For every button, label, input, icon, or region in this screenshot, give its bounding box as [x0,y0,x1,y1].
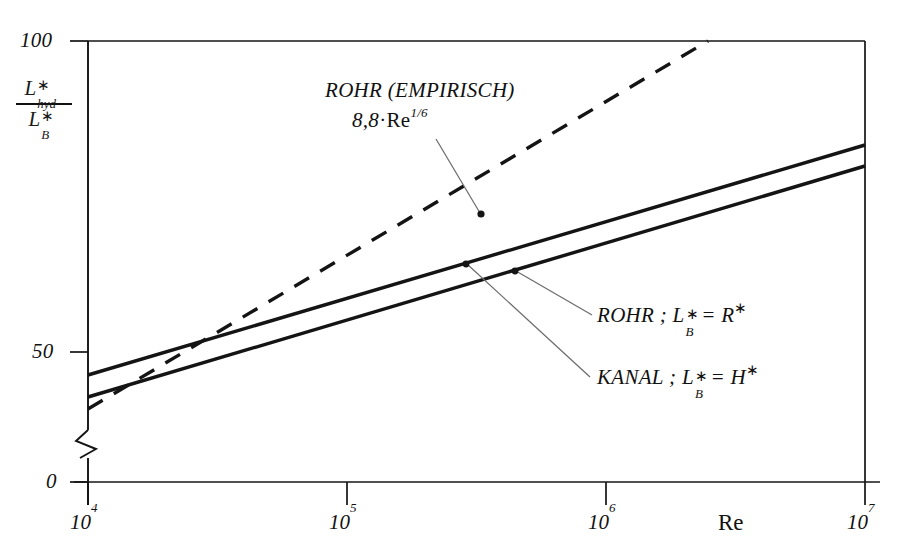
annotation-empirical-line2: 8,8·Re1/6 [352,108,428,133]
annotation-rohr-sub: B [686,324,694,340]
anchor-dot-rohr [512,268,519,275]
annotation-empirical-coeff: 8,8 [352,108,379,132]
y-den-sub: B [41,128,49,141]
ytick-label-0: 0 [46,469,57,494]
y-axis-label: L∗hyd L∗B [8,78,80,130]
annotation-kanal-eq: = [710,365,724,389]
y-num-L: L [25,76,37,100]
annotation-kanal-sep: ; [669,365,676,389]
ytick-label-50: 50 [32,339,53,364]
annotation-kanal-rhs: H [730,365,745,389]
annotation-empirical-base: Re [386,108,410,132]
annotation-rohr-eq: = [701,303,715,327]
annotation-rohr-rhs: R [721,303,734,327]
y-num-star: ∗ [37,78,50,93]
xtick-label-1e6: 106 [588,509,616,535]
leader-line-kanal [467,264,590,377]
annotation-empirical-line1: ROHR (EMPIRISCH) [325,78,515,103]
annotation-kanal: KANAL ; L∗B = H∗ [597,365,759,390]
annotation-empirical-exponent: 1/6 [410,105,428,120]
xtick-label-1e4: 104 [70,509,98,535]
y-axis-label-numerator: L∗hyd [8,78,80,101]
xtick-label-1e5: 105 [329,509,357,535]
annotation-kanal-rhs-star: ∗ [746,362,759,378]
anchor-dot-kanal [463,261,470,268]
y-axis-label-denominator: L∗B [8,108,80,130]
annotation-kanal-sub: B [695,386,703,402]
xtick-label-1e7: 107 [847,509,875,535]
annotation-rohr-star: ∗ [686,305,699,323]
x-axis-label: Re [718,510,744,536]
annotation-kanal-star: ∗ [695,367,708,385]
anchor-dot-empirical [477,210,484,217]
axis-break-glyph [76,430,96,458]
annotation-rohr-rhs-star: ∗ [734,300,747,316]
annotation-kanal-L: L [682,365,694,389]
annotation-rohr-L: L [673,303,685,327]
figure-container: L∗hyd L∗B 100 50 0 104 105 106 107 Re RO… [0,0,907,556]
y-den-star: ∗ [41,109,54,124]
leader-line-rohr [516,271,592,315]
leader-line-empirical [436,139,480,213]
annotation-rohr-name: ROHR [597,303,660,327]
annotation-kanal-name: KANAL [597,365,669,389]
annotation-rohr-sep: ; [660,303,667,327]
annotation-rohr: ROHR ; L∗B = R∗ [597,303,748,328]
ytick-label-100: 100 [20,28,52,53]
